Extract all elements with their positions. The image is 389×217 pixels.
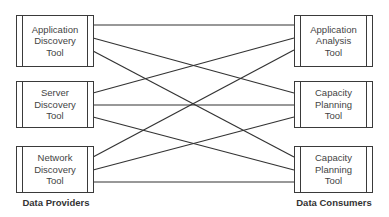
application-analysis-tool-box: Application Analysis Tool	[294, 15, 373, 67]
box-left-bar	[295, 16, 301, 66]
application-discovery-tool-box: Application Discovery Tool	[16, 15, 94, 67]
box-right-bar	[87, 82, 93, 127]
box-label: Application Analysis Tool	[302, 24, 364, 59]
capacity-planning-tool-box-2: Capacity Planning Tool	[294, 146, 373, 193]
server-discovery-tool-box: Server Discovery Tool	[16, 81, 94, 128]
box-left-bar	[17, 16, 23, 66]
box-label: Server Discovery Tool	[26, 87, 84, 122]
box-label: Capacity Planning Tool	[307, 152, 360, 187]
box-right-bar	[366, 16, 372, 66]
box-left-bar	[17, 82, 23, 127]
box-right-bar	[366, 82, 372, 127]
data-providers-caption: Data Providers	[14, 197, 98, 208]
network-discovery-tool-box: Network Discovery Tool	[16, 146, 94, 193]
box-label: Application Discovery Tool	[24, 24, 86, 59]
data-consumers-caption: Data Consumers	[290, 197, 378, 208]
box-right-bar	[87, 16, 93, 66]
box-label: Network Discovery Tool	[26, 152, 84, 187]
box-left-bar	[295, 82, 301, 127]
box-label: Capacity Planning Tool	[307, 87, 360, 122]
box-right-bar	[366, 147, 372, 192]
box-left-bar	[295, 147, 301, 192]
box-right-bar	[87, 147, 93, 192]
box-left-bar	[17, 147, 23, 192]
capacity-planning-tool-box-1: Capacity Planning Tool	[294, 81, 373, 128]
